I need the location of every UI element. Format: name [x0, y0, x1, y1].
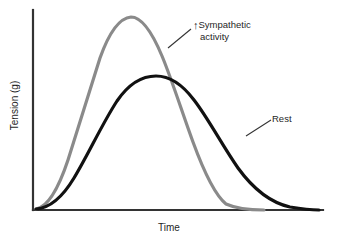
sympathetic-activity-label: ↑Sympathetic activity — [193, 19, 251, 42]
chart-figure: ↑Sympathetic activity Rest Time Tension … — [0, 0, 338, 242]
x-axis-label: Time — [0, 222, 338, 233]
rest-label: Rest — [272, 113, 292, 124]
y-axis-label-container: Tension (g) — [0, 0, 30, 210]
rest-leader-line — [246, 120, 271, 136]
sympathetic-label-line2: activity — [200, 31, 251, 42]
sympathetic-label-line1: Sympathetic — [199, 19, 251, 30]
y-axis-label: Tension (g) — [10, 80, 21, 129]
curve-sympathetic-activity — [36, 17, 264, 210]
sympathetic-leader-line — [168, 29, 191, 48]
